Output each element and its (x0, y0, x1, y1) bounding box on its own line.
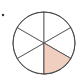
bullet-dot (2, 14, 4, 16)
fraction-circle-figure (0, 0, 81, 83)
